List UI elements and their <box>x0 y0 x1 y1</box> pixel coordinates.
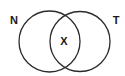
set-n-label: N <box>10 14 18 26</box>
set-t-label: T <box>113 14 120 26</box>
venn-diagram: N T X <box>0 0 125 76</box>
intersection-label: X <box>60 35 68 47</box>
